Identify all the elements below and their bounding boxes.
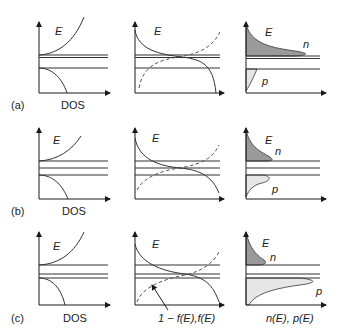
energy-label: E <box>265 26 273 38</box>
valence-dos-curve <box>39 68 67 93</box>
fermi-xlabel: 1 − f(E),f(E) <box>158 312 215 324</box>
row-b: E E E n p (b) DOS <box>11 128 326 217</box>
panel-c-carriers: E n p <box>246 232 326 305</box>
dos-xlabel: DOS <box>61 99 85 111</box>
energy-label: E <box>53 240 61 252</box>
hole-label: p <box>315 285 322 297</box>
hole-distribution <box>246 175 269 197</box>
hole-occupancy-curve <box>139 32 220 88</box>
panel-c-dos: E <box>39 232 110 305</box>
energy-label: E <box>262 237 270 249</box>
row-tag-b: (b) <box>11 205 24 217</box>
hole-distribution <box>246 69 257 91</box>
panel-c-fermi: E <box>135 232 224 310</box>
valence-dos-curve <box>39 175 68 199</box>
fermi-dirac-curve <box>135 244 219 302</box>
row-tag-c: (c) <box>11 312 24 324</box>
fermi-dirac-curve <box>135 138 219 193</box>
panel-b-fermi: E <box>135 128 224 199</box>
row-c: E E E n p (c) DOS 1 − f(E),f(E) <box>11 232 326 324</box>
panel-a-carriers: E n p <box>246 22 326 93</box>
energy-label: E <box>154 25 162 37</box>
row-a: E E E n p (a) DOS <box>11 17 326 111</box>
panel-b-carriers: E n p <box>246 128 326 199</box>
pointer-arrow <box>152 285 168 310</box>
hole-label: p <box>261 75 268 87</box>
energy-label: E <box>55 25 63 37</box>
fermi-dirac-curve <box>135 30 216 93</box>
energy-label: E <box>152 238 160 250</box>
carrier-xlabel: n(E), p(E) <box>266 312 314 324</box>
panel-a-fermi: E <box>135 22 224 93</box>
semiconductor-band-diagram: E E E n p (a) DOS <box>0 0 339 333</box>
dos-xlabel: DOS <box>62 205 86 217</box>
hole-occupancy-curve <box>137 252 219 302</box>
dos-xlabel: DOS <box>63 312 87 324</box>
energy-label: E <box>53 134 61 146</box>
electron-label: n <box>270 251 276 263</box>
electron-label: n <box>303 38 309 50</box>
panel-a-dos: E <box>39 17 110 93</box>
hole-label: p <box>271 183 278 195</box>
electron-label: n <box>275 145 281 157</box>
valence-dos-curve <box>39 278 65 305</box>
energy-label: E <box>265 134 273 146</box>
energy-label: E <box>152 132 160 144</box>
conduction-dos-curve <box>39 232 84 265</box>
electron-distribution <box>246 23 306 56</box>
hole-distribution <box>246 278 313 305</box>
panel-b-dos: E <box>39 128 110 199</box>
row-tag-a: (a) <box>11 99 24 111</box>
